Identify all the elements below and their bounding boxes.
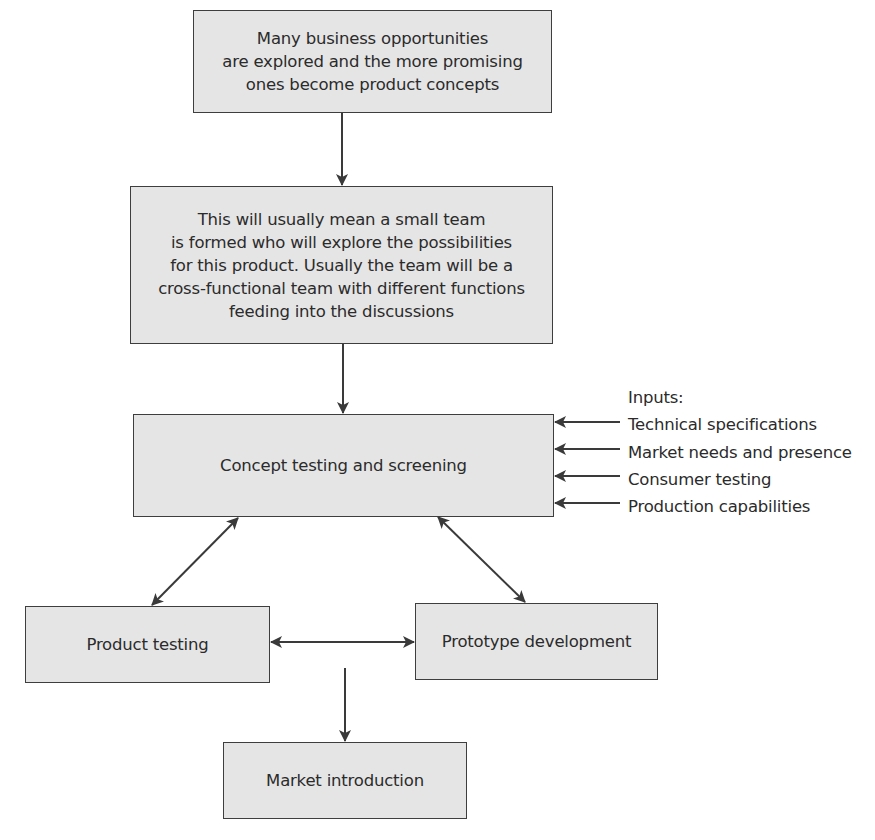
input-item: Consumer testing [628, 466, 852, 493]
node-market-introduction: Market introduction [223, 742, 467, 819]
node-opportunities: Many business opportunities are explored… [193, 10, 552, 113]
arrow-concept-prototype [438, 517, 525, 602]
input-item: Production capabilities [628, 493, 852, 520]
node-concept-testing-text: Concept testing and screening [220, 454, 467, 477]
node-opportunities-text: Many business opportunities are explored… [222, 27, 522, 96]
input-item: Market needs and presence [628, 439, 852, 466]
node-product-testing: Product testing [25, 606, 270, 683]
node-concept-testing: Concept testing and screening [133, 414, 554, 517]
input-item: Technical specifications [628, 411, 852, 438]
node-prototype-development: Prototype development [415, 603, 658, 680]
inputs-heading: Inputs: [628, 384, 852, 411]
node-product-testing-text: Product testing [86, 633, 208, 656]
node-prototype-development-text: Prototype development [442, 630, 632, 653]
node-team-text: This will usually mean a small team is f… [158, 208, 525, 323]
arrow-concept-product-testing [152, 518, 238, 605]
node-market-introduction-text: Market introduction [266, 769, 424, 792]
inputs-list: Inputs: Technical specifications Market … [628, 384, 852, 520]
node-team: This will usually mean a small team is f… [130, 186, 553, 344]
